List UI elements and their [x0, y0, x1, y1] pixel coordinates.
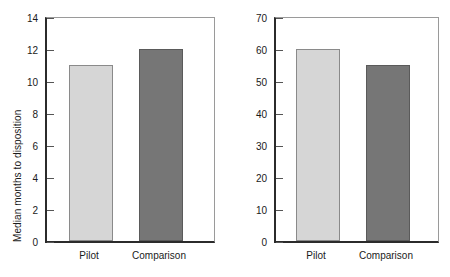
y-tick-mark [276, 82, 283, 83]
y-tick-label: 2 [32, 205, 38, 216]
chart-panel-left: Median months to disposition 02468101214… [0, 0, 225, 277]
y-tick-label: 40 [256, 109, 267, 120]
x-axis-label: Pilot [306, 250, 325, 261]
y-tick-mark [276, 50, 283, 51]
y-tick-mark [47, 82, 54, 83]
y-tick-label: 60 [256, 45, 267, 56]
bar-comparison [139, 49, 183, 241]
y-tick-label: 8 [32, 109, 38, 120]
y-tick-mark [276, 178, 283, 179]
y-tick-label: 10 [256, 205, 267, 216]
y-tick-label: 6 [32, 141, 38, 152]
y-tick-label: 12 [27, 45, 38, 56]
y-tick-mark [47, 18, 54, 19]
y-tick-label: 0 [261, 237, 267, 248]
y-tick-mark [47, 146, 54, 147]
figure-two-bar-charts: Median months to disposition 02468101214… [0, 0, 450, 277]
y-tick-mark [276, 18, 283, 19]
bar-pilot [296, 49, 340, 241]
y-tick-mark [47, 242, 54, 243]
x-axis-label: Comparison [132, 250, 186, 261]
x-axis-label: Pilot [79, 250, 98, 261]
y-tick-mark [276, 210, 283, 211]
plot-area-right: 010203040506070 [274, 17, 439, 243]
y-tick-label: 0 [32, 237, 38, 248]
plot-area-left: 02468101214 [45, 17, 215, 243]
y-tick-label: 70 [256, 13, 267, 24]
y-tick-label: 30 [256, 141, 267, 152]
y-tick-mark [47, 50, 54, 51]
y-tick-mark [276, 146, 283, 147]
x-axis-label: Comparison [359, 250, 413, 261]
bar-comparison [366, 65, 410, 241]
y-tick-label: 50 [256, 77, 267, 88]
y-tick-label: 14 [27, 13, 38, 24]
y-tick-label: 4 [32, 173, 38, 184]
y-tick-mark [47, 210, 54, 211]
y-axis-title-left: Median months to disposition [12, 110, 23, 242]
y-tick-mark [276, 114, 283, 115]
y-tick-label: 10 [27, 77, 38, 88]
y-tick-mark [276, 242, 283, 243]
y-tick-mark [47, 114, 54, 115]
bar-pilot [69, 65, 113, 241]
y-tick-label: 20 [256, 173, 267, 184]
y-tick-mark [47, 178, 54, 179]
